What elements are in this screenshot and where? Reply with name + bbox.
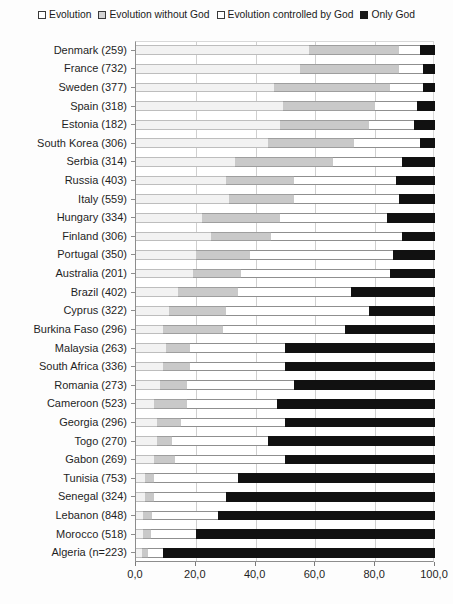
segment-only-god (396, 176, 435, 186)
bar-row: Malaysia (263) (0, 339, 453, 358)
segment-evolution-without-god (160, 380, 187, 390)
stacked-bar (136, 232, 435, 242)
segment-evolution-without-god (166, 343, 190, 353)
segment-evolution-controlled-by-god (369, 120, 414, 130)
segment-evolution (136, 287, 178, 297)
segment-only-god (423, 64, 435, 74)
segment-evolution (136, 306, 169, 316)
segment-evolution-without-god (178, 287, 238, 297)
segment-evolution (136, 399, 154, 409)
segment-evolution-controlled-by-god (399, 45, 420, 55)
segment-evolution-without-god (143, 511, 152, 521)
segment-only-god (238, 473, 435, 483)
stacked-bar (136, 380, 435, 390)
segment-evolution-without-god (193, 269, 241, 279)
segment-evolution (136, 83, 274, 93)
stacked-bar (136, 548, 435, 558)
segment-evolution-controlled-by-god (181, 418, 286, 428)
segment-evolution-controlled-by-god (148, 548, 163, 558)
category-label: Russia (403) (0, 175, 131, 186)
segment-evolution (136, 473, 145, 483)
segment-evolution-without-god (202, 213, 280, 223)
segment-evolution-without-god (163, 325, 223, 335)
stacked-bar (136, 455, 435, 465)
segment-evolution (136, 380, 160, 390)
category-label: Togo (270) (0, 436, 131, 447)
segment-only-god (226, 492, 435, 502)
square-outline-white-icon (217, 11, 225, 19)
segment-evolution (136, 232, 211, 242)
stacked-bar (136, 511, 435, 521)
category-label: Hungary (334) (0, 212, 131, 223)
segment-evolution (136, 492, 145, 502)
legend-label-evolution-controlled-by-god: Evolution controlled by God (228, 10, 354, 20)
segment-evolution-controlled-by-god (375, 101, 417, 111)
stacked-bar (136, 138, 435, 148)
x-axis-tick-mark (374, 562, 375, 566)
stacked-bar (136, 287, 435, 297)
category-label: Sweden (377) (0, 82, 131, 93)
segment-evolution-without-god (154, 399, 187, 409)
segment-evolution-without-god (169, 306, 226, 316)
category-label: Tunisia (753) (0, 473, 131, 484)
segment-evolution-controlled-by-god (190, 343, 286, 353)
segment-only-god (285, 418, 435, 428)
segment-evolution-controlled-by-god (354, 138, 420, 148)
segment-only-god (390, 269, 435, 279)
bar-row: Cyprus (322) (0, 302, 453, 321)
legend-item-evolution-controlled-by-god: Evolution controlled by God (217, 10, 354, 20)
segment-only-god (285, 362, 435, 372)
segment-evolution-controlled-by-god (152, 511, 218, 521)
segment-only-god (285, 455, 435, 465)
category-label: Italy (559) (0, 194, 131, 205)
stacked-bar (136, 418, 435, 428)
segment-evolution (136, 511, 143, 521)
segment-evolution-without-god (274, 83, 391, 93)
category-label: Australia (201) (0, 268, 131, 279)
x-axis-tick-label: 80,0 (363, 568, 384, 580)
x-axis-tick-mark (135, 562, 136, 566)
stacked-bar (136, 194, 435, 204)
segment-only-god (393, 250, 435, 260)
segment-evolution-without-god (157, 436, 172, 446)
segment-evolution-without-god (280, 120, 370, 130)
category-label: Malaysia (263) (0, 343, 131, 354)
category-label: Portugal (350) (0, 249, 131, 260)
segment-evolution (136, 418, 157, 428)
category-label: Serbia (314) (0, 156, 131, 167)
segment-evolution-without-god (229, 194, 295, 204)
stacked-bar (136, 176, 435, 186)
bar-row: Gabon (269) (0, 450, 453, 469)
category-label: Cameroon (523) (0, 398, 131, 409)
x-axis-tick-mark (195, 562, 196, 566)
square-filled-black-icon (360, 11, 368, 19)
bar-rows: Denmark (259)France (732)Sweden (377)Spa… (0, 41, 453, 562)
segment-only-god (423, 83, 435, 93)
stacked-bar (136, 213, 435, 223)
segment-evolution-without-god (157, 418, 181, 428)
bar-row: Finland (306) (0, 227, 453, 246)
category-label: Estonia (182) (0, 119, 131, 130)
segment-evolution-controlled-by-god (250, 250, 394, 260)
category-label: Morocco (518) (0, 529, 131, 540)
bar-row: Serbia (314) (0, 153, 453, 172)
category-label: Lebanon (848) (0, 510, 131, 521)
legend-item-evolution: Evolution (38, 10, 91, 20)
segment-evolution-controlled-by-god (172, 436, 268, 446)
segment-evolution-without-god (143, 529, 150, 539)
x-axis-tick-label: 0,0 (127, 568, 142, 580)
legend-item-only-god: Only God (360, 10, 415, 20)
segment-only-god (420, 45, 435, 55)
category-label: Cyprus (322) (0, 305, 131, 316)
segment-evolution-controlled-by-god (241, 269, 391, 279)
stacked-bar (136, 343, 435, 353)
segment-evolution-without-god (283, 101, 376, 111)
bar-row: Lebanon (848) (0, 506, 453, 525)
bar-row: Spain (318) (0, 97, 453, 116)
square-outline-white-icon (38, 11, 46, 19)
segment-evolution (136, 529, 143, 539)
segment-evolution-controlled-by-god (238, 287, 352, 297)
segment-evolution-controlled-by-god (390, 83, 423, 93)
segment-evolution (136, 455, 154, 465)
segment-evolution-controlled-by-god (187, 399, 277, 409)
